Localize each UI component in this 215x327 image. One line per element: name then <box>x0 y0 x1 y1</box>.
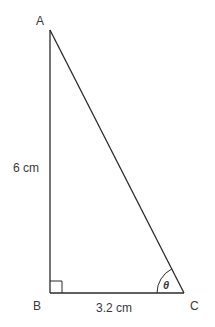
side-label-bc: 3.2 cm <box>96 301 132 315</box>
angle-label-theta: θ <box>163 279 169 291</box>
vertex-label-b: B <box>33 299 41 313</box>
vertex-label-c: C <box>190 299 199 313</box>
side-ac-hypotenuse <box>50 30 184 293</box>
vertex-label-a: A <box>36 14 44 28</box>
right-angle-marker <box>50 281 62 293</box>
triangle-diagram: A B C 6 cm 3.2 cm θ <box>0 0 215 327</box>
side-label-ab: 6 cm <box>13 161 39 175</box>
